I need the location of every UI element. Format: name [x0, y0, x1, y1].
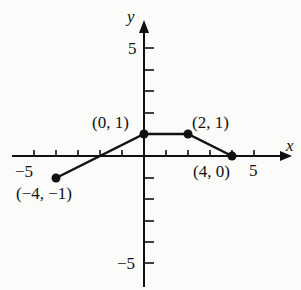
point-0-1 — [140, 130, 149, 139]
point-label-2-1: (2, 1) — [192, 113, 229, 132]
point-label-4-0: (4, 0) — [193, 162, 230, 181]
tick-label-y-neg5: −5 — [117, 254, 135, 273]
point-neg4-neg1 — [52, 174, 61, 183]
point-label-0-1: (0, 1) — [92, 113, 129, 132]
x-axis-label: x — [285, 136, 294, 155]
tick-label-y-5: 5 — [128, 39, 137, 58]
tick-label-x-5: 5 — [249, 161, 258, 180]
point-label-neg4-neg1: (−4, −1) — [16, 184, 72, 203]
y-axis-arrow-icon — [139, 20, 149, 33]
coordinate-graph: x y −5 5 5 −5 (−4, −1) (0, 1) (2, 1) (4,… — [0, 0, 301, 290]
y-axis-label: y — [125, 7, 135, 26]
tick-label-x-neg5: −5 — [15, 162, 33, 181]
point-4-0 — [228, 152, 237, 161]
